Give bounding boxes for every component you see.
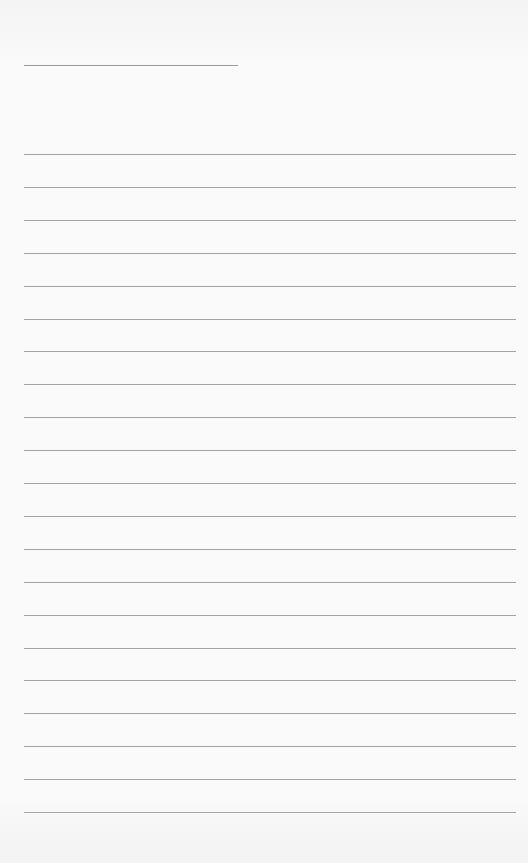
lined-paper-sheet <box>0 0 528 863</box>
ruled-line <box>24 483 516 484</box>
name-line <box>24 65 238 66</box>
ruled-line <box>24 779 516 780</box>
ruled-line <box>24 154 516 155</box>
ruled-line <box>24 615 516 616</box>
ruled-line <box>24 351 516 352</box>
ruled-line <box>24 450 516 451</box>
ruled-line <box>24 319 516 320</box>
ruled-line <box>24 582 516 583</box>
ruled-line <box>24 417 516 418</box>
ruled-line <box>24 187 516 188</box>
ruled-line <box>24 220 516 221</box>
ruled-line <box>24 648 516 649</box>
ruled-line <box>24 746 516 747</box>
ruled-line <box>24 680 516 681</box>
ruled-line <box>24 549 516 550</box>
ruled-line <box>24 253 516 254</box>
ruled-line <box>24 286 516 287</box>
ruled-line <box>24 384 516 385</box>
ruled-line <box>24 812 516 813</box>
ruled-line <box>24 713 516 714</box>
ruled-line <box>24 516 516 517</box>
